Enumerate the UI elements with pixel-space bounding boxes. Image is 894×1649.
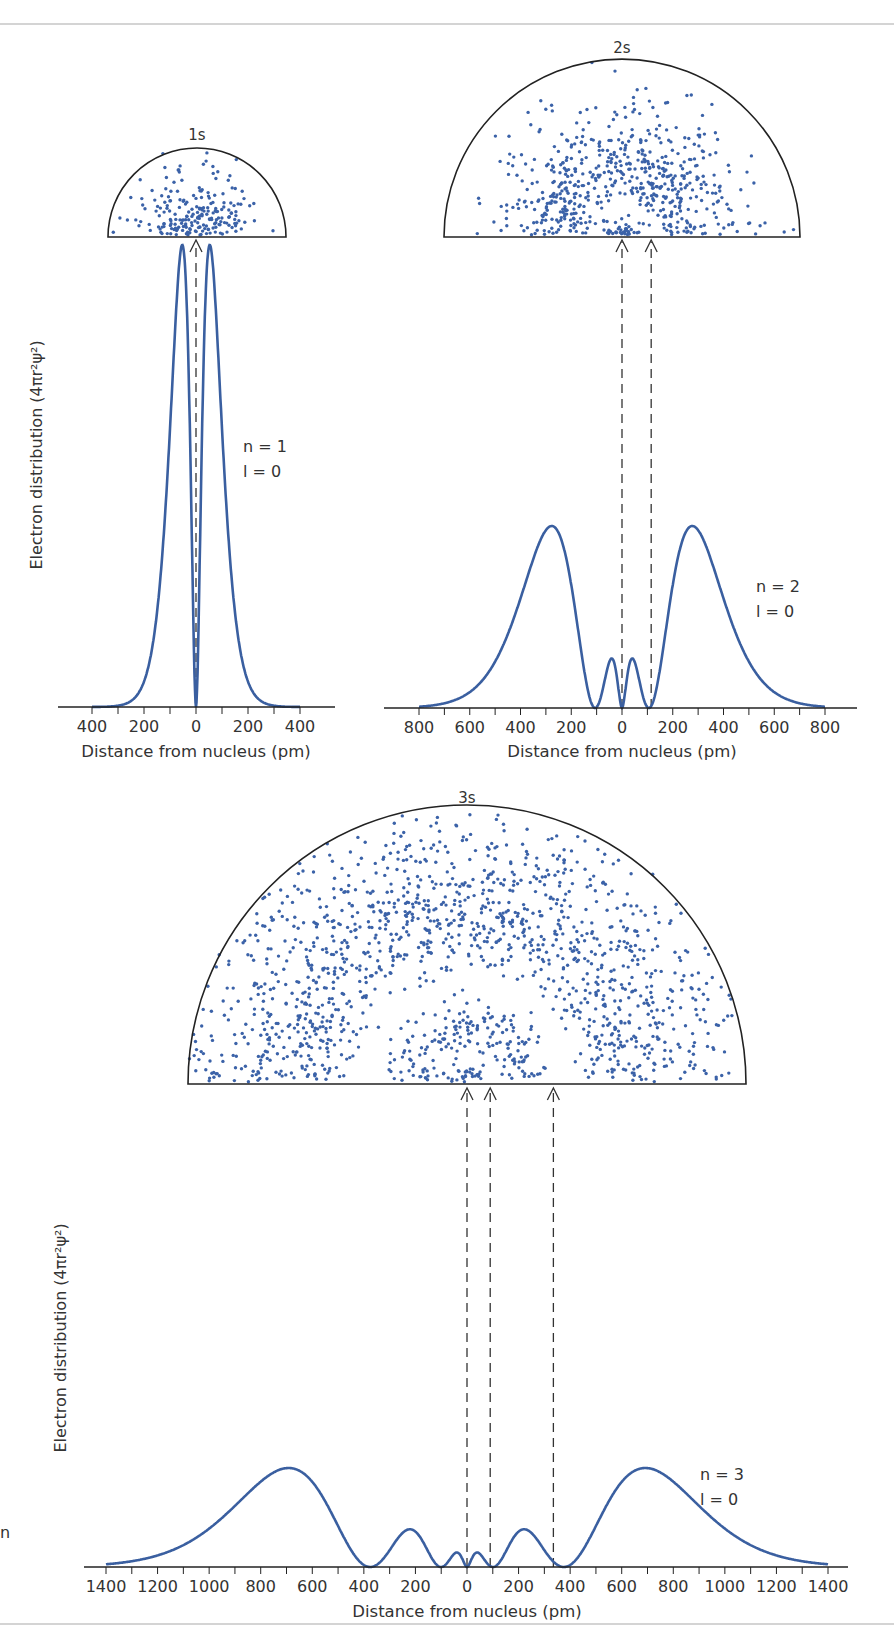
quantum-n-3s: n = 3 bbox=[700, 1465, 744, 1484]
x-axis-2s: 8006004002000200400600800 bbox=[384, 708, 857, 737]
tick-label: 1000 bbox=[189, 1577, 230, 1596]
tick-label: 1200 bbox=[137, 1577, 178, 1596]
tick-label: 1400 bbox=[86, 1577, 127, 1596]
tick-label: 600 bbox=[606, 1577, 637, 1596]
tick-label: 800 bbox=[810, 718, 841, 737]
tick-label: 800 bbox=[658, 1577, 689, 1596]
tick-label: 1400 bbox=[808, 1577, 849, 1596]
tick-label: 600 bbox=[454, 718, 485, 737]
tick-label: 400 bbox=[708, 718, 739, 737]
tick-label: 400 bbox=[349, 1577, 380, 1596]
tick-label: 600 bbox=[759, 718, 790, 737]
panel-3s: 3s 1400120010008006004002000200400600800… bbox=[51, 789, 848, 1621]
tick-label: 800 bbox=[245, 1577, 276, 1596]
tick-label: 400 bbox=[285, 717, 316, 736]
electron-cloud-1s bbox=[112, 151, 275, 236]
tick-label: 600 bbox=[297, 1577, 328, 1596]
semicircle-outline-3s bbox=[188, 805, 746, 1084]
orbital-plots: 1s 4002000200400 n = 1 l = 0 Distance fr… bbox=[0, 0, 894, 1649]
node-arrows-2s bbox=[616, 240, 657, 708]
tick-label: 0 bbox=[191, 717, 201, 736]
edge-text-fragment: n bbox=[0, 1523, 10, 1542]
x-axis-1s: 4002000200400 bbox=[58, 707, 335, 736]
quantum-l-2s: l = 0 bbox=[756, 602, 794, 621]
orbital-title-1s: 1s bbox=[188, 126, 206, 144]
y-axis-label-bottom: Electron distribution (4πr²ψ²) bbox=[51, 1223, 70, 1452]
bottom-rule bbox=[0, 1623, 894, 1625]
tick-label: 400 bbox=[77, 717, 108, 736]
tick-label: 200 bbox=[503, 1577, 534, 1596]
tick-label: 0 bbox=[462, 1577, 472, 1596]
x-axis-label-2s: Distance from nucleus (pm) bbox=[507, 742, 736, 761]
panel-1s: 1s 4002000200400 n = 1 l = 0 Distance fr… bbox=[27, 126, 335, 761]
panel-2s: 2s 8006004002000200400600800 n = 2 l = 0… bbox=[384, 39, 857, 761]
quantum-n-1s: n = 1 bbox=[243, 437, 287, 456]
quantum-l-3s: l = 0 bbox=[700, 1490, 738, 1509]
x-axis-3s: 1400120010008006004002000200400600800100… bbox=[84, 1567, 848, 1596]
y-axis-label-top: Electron distribution (4πr²ψ²) bbox=[27, 340, 46, 569]
tick-label: 200 bbox=[657, 718, 688, 737]
orbital-title-2s: 2s bbox=[613, 39, 631, 57]
tick-label: 400 bbox=[505, 718, 536, 737]
tick-label: 200 bbox=[556, 718, 587, 737]
tick-label: 200 bbox=[400, 1577, 431, 1596]
tick-label: 800 bbox=[404, 718, 435, 737]
node-arrows-3s bbox=[461, 1088, 559, 1567]
tick-label: 1200 bbox=[756, 1577, 797, 1596]
x-axis-label-1s: Distance from nucleus (pm) bbox=[81, 742, 310, 761]
orbital-figure: 1s 4002000200400 n = 1 l = 0 Distance fr… bbox=[0, 0, 894, 1649]
x-axis-label-3s: Distance from nucleus (pm) bbox=[352, 1602, 581, 1621]
electron-cloud-3s bbox=[188, 813, 734, 1083]
tick-label: 0 bbox=[617, 718, 627, 737]
tick-label: 400 bbox=[555, 1577, 586, 1596]
electron-cloud-2s bbox=[476, 61, 796, 237]
tick-label: 1000 bbox=[704, 1577, 745, 1596]
tick-label: 200 bbox=[233, 717, 264, 736]
top-rule bbox=[0, 23, 894, 25]
quantum-n-2s: n = 2 bbox=[756, 577, 800, 596]
quantum-l-1s: l = 0 bbox=[243, 462, 281, 481]
tick-label: 200 bbox=[129, 717, 160, 736]
